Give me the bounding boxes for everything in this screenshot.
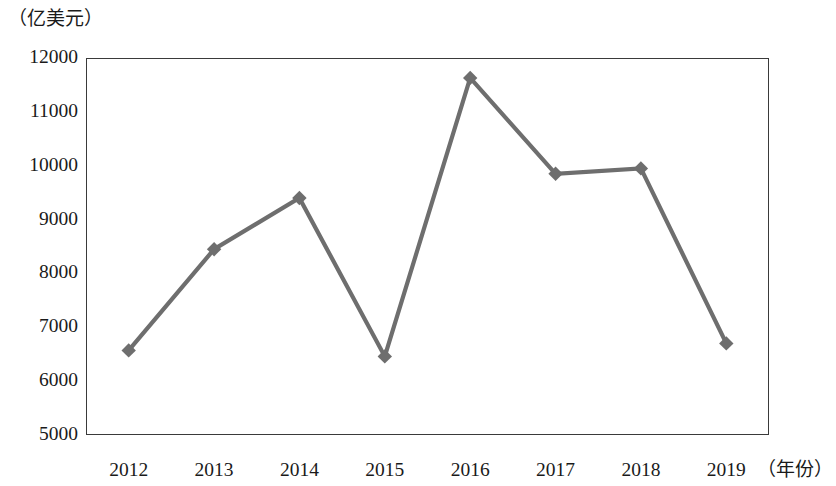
y-axis-tick: 8000 xyxy=(0,262,78,282)
plot-area-frame xyxy=(86,58,769,435)
y-axis-tick: 11000 xyxy=(0,101,78,121)
line-chart: （亿美元） 1200011000100009000800070006000500… xyxy=(0,0,836,486)
y-axis-tick-label: 7000 xyxy=(4,316,78,336)
y-axis-tick: 9000 xyxy=(0,209,78,229)
y-axis-tick-label: 11000 xyxy=(4,101,78,121)
y-axis-tick-label: 8000 xyxy=(4,262,78,282)
x-axis-tick-label: 2017 xyxy=(516,458,596,482)
y-axis-tick-label: 12000 xyxy=(4,47,78,67)
x-axis-tick-label: 2014 xyxy=(259,458,339,482)
y-axis-tick: 10000 xyxy=(0,155,78,175)
x-axis-tick-label: 2016 xyxy=(430,458,510,482)
x-axis-tick-label: 2013 xyxy=(174,458,254,482)
x-axis-tick-label: 2018 xyxy=(601,458,681,482)
y-axis-tick: 12000 xyxy=(0,47,78,67)
y-axis-tick: 5000 xyxy=(0,424,78,444)
y-axis-tick-label: 10000 xyxy=(4,155,78,175)
x-axis-tick-label: 2019 xyxy=(686,458,766,482)
x-axis-tick-label: 2015 xyxy=(345,458,425,482)
y-axis-tick: 6000 xyxy=(0,370,78,390)
y-axis-tick-label: 6000 xyxy=(4,370,78,390)
y-axis-tick-label: 5000 xyxy=(4,424,78,444)
x-axis-tick-label: 2012 xyxy=(89,458,169,482)
y-axis-unit-label: （亿美元） xyxy=(8,6,103,32)
y-axis-tick-label: 9000 xyxy=(4,209,78,229)
x-axis-title: （年份） xyxy=(757,458,833,482)
y-axis-tick: 7000 xyxy=(0,316,78,336)
